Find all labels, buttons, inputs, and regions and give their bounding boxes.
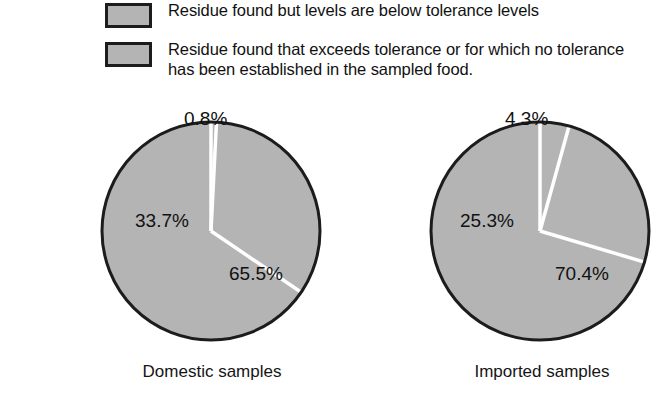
pie-chart-imported-svg [409,100,664,362]
chart-legend: Residue found but levels are below toler… [105,0,650,90]
pie-chart-domestic-samples [80,100,342,362]
legend-item: Residue found that exceeds tolerance or … [105,39,650,79]
pie-slice-label-domestic-none: 65.5% [229,263,283,285]
legend-swatch-below-tolerance [105,3,152,28]
legend-label-below-tolerance: Residue found but levels are below toler… [168,0,539,20]
legend-item: Residue found but levels are below toler… [105,0,650,28]
legend-label-exceeds-tolerance: Residue found that exceeds tolerance or … [168,39,650,79]
pie-chart-label-domestic: Domestic samples [132,362,292,382]
pie-slice-label-imported-below: 25.3% [460,210,514,232]
pie-chart-imported-samples [409,100,664,362]
pie-chart-domestic-svg [80,100,342,362]
pie-slice-label-domestic-exceeds: 0.8% [184,108,227,130]
pie-slice-label-domestic-below: 33.7% [135,210,189,232]
pie-slice-label-imported-none: 70.4% [555,263,609,285]
pie-slice-label-imported-exceeds: 4.3% [505,108,548,130]
legend-swatch-exceeds-tolerance [105,42,152,67]
pie-chart-label-imported: Imported samples [462,362,622,382]
